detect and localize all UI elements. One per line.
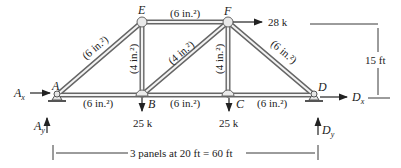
area-label-AE: (6 in.²) (80, 33, 112, 63)
load-label-C: 25 k (219, 117, 239, 129)
area-label-CD: (6 in.²) (257, 97, 288, 110)
area-label-EB: (4 in.²) (127, 43, 140, 74)
truss-diagram: A B C D E F (6 in.²) (6 in.²) (6 in.²) (… (0, 0, 401, 168)
load-labels: 28 k 25 k 25 k (133, 16, 288, 129)
joint-C (222, 90, 234, 96)
truss-members (57, 22, 314, 95)
load-label-B: 25 k (133, 117, 153, 129)
height-dimension-label: 15 ft (365, 54, 385, 66)
area-label-BC: (6 in.²) (170, 97, 201, 110)
node-label-C: C (236, 97, 245, 111)
node-label-E: E (137, 3, 146, 17)
load-label-F: 28 k (268, 16, 288, 28)
node-label-A: A (51, 79, 60, 93)
node-label-D: D (317, 80, 327, 94)
joint-F (223, 17, 233, 27)
reaction-label-Dy: Dy (321, 123, 335, 139)
area-label-FC: (4 in.²) (213, 43, 226, 74)
span-dimension-label: 3 panels at 20 ft = 60 ft (130, 147, 232, 159)
node-label-B: B (148, 97, 156, 111)
reaction-label-Ay: Ay (33, 119, 45, 135)
reaction-label-Dx: Dx (351, 90, 365, 106)
reaction-label-Ax: Ax (13, 86, 25, 102)
area-label-EF: (6 in.²) (170, 7, 201, 20)
joint-E (137, 17, 147, 27)
node-label-F: F (223, 4, 232, 18)
area-label-AB: (6 in.²) (83, 97, 114, 110)
